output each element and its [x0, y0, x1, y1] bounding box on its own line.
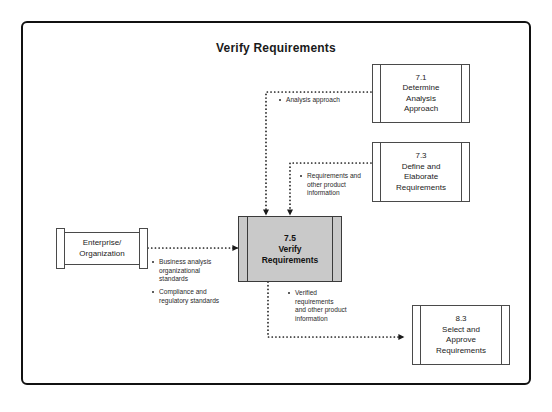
flow-label-enterprise-standards: Business analysis organizational standar… [152, 258, 242, 305]
entity-box-enterprise[interactable]: Enterprise/ Organization [56, 232, 148, 265]
flow-label-requirements-product-info: Requirements and other product informati… [300, 172, 380, 198]
task-box-7-1[interactable]: 7.1 Determine Analysis Approach [372, 64, 470, 123]
flow-label-item: Requirements and other product informati… [300, 172, 380, 198]
flow-label-analysis-approach: Analysis approach [279, 96, 369, 105]
entity-cap-left [56, 228, 65, 269]
flow-label-item: Verified requirements and other product … [288, 289, 378, 323]
flow-label-item: Analysis approach [279, 96, 369, 105]
flow-label-verified-requirements: Verified requirements and other product … [288, 289, 378, 323]
process-box-7-5[interactable]: 7.5 Verify Requirements [238, 216, 342, 282]
entity-cap-right [139, 228, 148, 269]
flow-label-item: Business analysis organizational standar… [152, 258, 242, 284]
task-box-7-1-label: 7.1 Determine Analysis Approach [394, 73, 449, 115]
task-box-7-3-label: 7.3 Define and Elaborate Requirements [387, 151, 455, 193]
entity-box-enterprise-label: Enterprise/ Organization [79, 238, 124, 259]
process-box-7-5-label: 7.5 Verify Requirements [262, 233, 319, 266]
task-box-8-3-label: 8.3 Select and Approve Requirements [427, 314, 495, 356]
task-box-7-3[interactable]: 7.3 Define and Elaborate Requirements [372, 142, 470, 202]
task-box-8-3[interactable]: 8.3 Select and Approve Requirements [412, 305, 510, 365]
flow-label-item: Compliance and regulatory standards [152, 288, 242, 305]
diagram-page: Verify Requirements 7.1 Determine Analys… [0, 0, 552, 412]
